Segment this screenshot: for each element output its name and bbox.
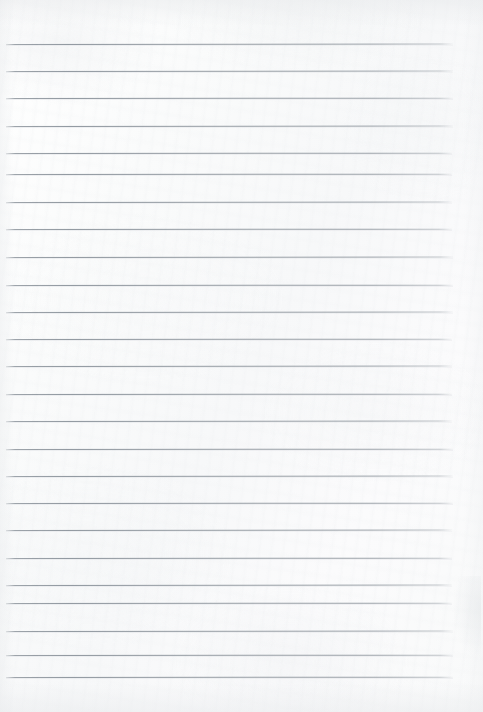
paper-sheet [0,0,483,712]
lined-paper-page: Blank lined paper [0,0,483,712]
